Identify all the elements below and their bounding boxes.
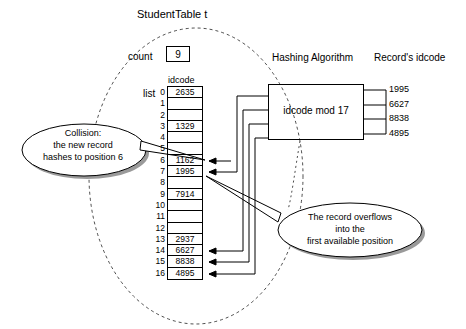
hash-formula: idcode mod 17 <box>268 105 364 116</box>
row-index: 6 <box>151 155 165 165</box>
collision-line-3: hashes to position 6 <box>28 151 138 163</box>
table-row: 4 <box>168 132 202 143</box>
table-row: 31329 <box>168 121 202 132</box>
table-row: 02635 <box>168 87 202 98</box>
table-row: 8 <box>168 177 202 188</box>
row-index: 4 <box>151 132 165 142</box>
row-index: 13 <box>151 234 165 244</box>
row-index: 3 <box>151 121 165 131</box>
table-row: 97914 <box>168 189 202 200</box>
record-idcode-3: 4895 <box>389 128 409 138</box>
student-table: 02635 1 2 31329 4 5 61162 71995 8 97914 … <box>167 86 203 280</box>
overflow-pointer <box>206 176 281 222</box>
row-index: 15 <box>151 256 165 266</box>
count-label: count <box>128 51 152 62</box>
row-index: 14 <box>151 245 165 255</box>
row-value: 2937 <box>176 234 195 244</box>
row-value: 7914 <box>176 189 195 199</box>
row-value: 4895 <box>176 268 195 278</box>
record-idcode-0: 1995 <box>389 84 409 94</box>
table-row: 2 <box>168 110 202 121</box>
overflow-line-1: The record overflows <box>288 211 412 223</box>
row-value: 8838 <box>176 256 195 266</box>
table-row: 158838 <box>168 256 202 267</box>
row-index: 8 <box>151 177 165 187</box>
table-row: 146627 <box>168 245 202 256</box>
count-value: 9 <box>166 47 190 63</box>
diagram-vector-layer <box>0 0 466 329</box>
hash-dotted-link <box>288 141 300 210</box>
record-idcode-1: 6627 <box>389 99 409 109</box>
row-index: 1 <box>151 98 165 108</box>
row-index: 9 <box>151 189 165 199</box>
row-index: 10 <box>151 200 165 210</box>
table-row: 5 <box>168 143 202 154</box>
table-row: 61162 <box>168 155 202 166</box>
overflow-line-2: into the <box>288 223 412 235</box>
overflow-callout-text: The record overflows into the first avai… <box>288 211 412 247</box>
idcode-column-header: idcode <box>168 75 195 85</box>
row-value: 1329 <box>176 121 195 131</box>
collision-line-1: Collision: <box>28 127 138 139</box>
diagram-title: StudentTable t <box>137 8 207 20</box>
row-index: 16 <box>151 268 165 278</box>
hashing-algorithm-title: Hashing Algorithm <box>272 52 353 63</box>
diagram-canvas: StudentTable t count 9 list idcode 02635… <box>0 0 466 329</box>
row-value: 6627 <box>176 245 195 255</box>
row-value: 1995 <box>176 166 195 176</box>
row-index: 7 <box>151 166 165 176</box>
row-index: 0 <box>151 87 165 97</box>
record-input-wires <box>364 90 386 134</box>
row-index: 12 <box>151 223 165 233</box>
row-index: 11 <box>151 211 165 221</box>
table-row: 11 <box>168 211 202 222</box>
collision-line-2: the new record <box>28 139 138 151</box>
table-row: 164895 <box>168 268 202 279</box>
table-row: 1 <box>168 98 202 109</box>
row-index: 2 <box>151 110 165 120</box>
overflow-line-3: first available position <box>288 235 412 247</box>
table-row: 12 <box>168 223 202 234</box>
row-value: 1162 <box>176 155 194 165</box>
records-idcode-title: Record's idcode <box>374 52 445 63</box>
record-idcode-2: 8838 <box>389 113 409 123</box>
collision-callout-text: Collision: the new record hashes to posi… <box>28 127 138 163</box>
hash-output-wires <box>209 96 268 277</box>
table-row: 71995 <box>168 166 202 177</box>
row-value: 2635 <box>176 87 195 97</box>
row-index: 5 <box>151 143 165 153</box>
table-row: 10 <box>168 200 202 211</box>
table-row: 132937 <box>168 234 202 245</box>
